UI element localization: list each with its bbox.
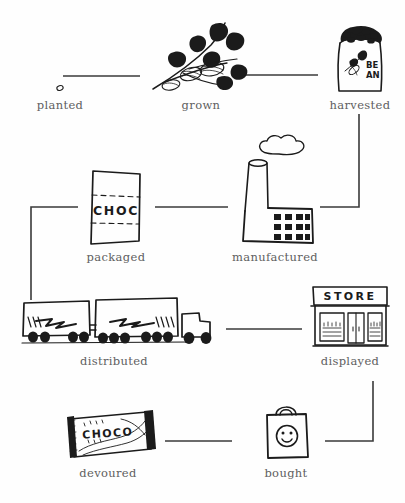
node-devoured[interactable]: CHOCO devoured — [52, 402, 164, 480]
choc-package-art: CHOC — [82, 165, 150, 247]
chocolate-bar-icon: CHOCO — [59, 407, 157, 463]
bean-sack-text-line2: AN — [366, 70, 380, 80]
node-label-packaged: packaged — [87, 250, 146, 264]
node-store[interactable]: STORE displayed — [302, 282, 398, 368]
choc-package-icon: CHOC — [82, 165, 150, 247]
cacao-branch-art — [149, 19, 253, 95]
bean-sack-art: BE AN — [331, 23, 389, 95]
seed-art — [48, 75, 72, 95]
shopping-bag-art — [254, 399, 318, 463]
choc-package-text: CHOC — [93, 203, 139, 218]
bean-sack-text-line1: BE — [366, 60, 378, 70]
node-label-manufactured: manufactured — [232, 250, 318, 264]
node-bought[interactable]: bought — [238, 398, 334, 480]
node-harvested[interactable]: BE AN harvested — [320, 14, 400, 112]
node-label-devoured: devoured — [79, 466, 136, 480]
node-label-distributed: distributed — [80, 354, 148, 368]
shopping-bag-icon — [254, 399, 318, 463]
store-sign-text: STORE — [324, 290, 377, 303]
cacao-branch-icon — [149, 19, 253, 95]
node-planted[interactable]: planted — [8, 62, 112, 112]
node-manufactured[interactable]: manufactured — [222, 100, 328, 264]
node-label-planted: planted — [37, 98, 84, 112]
node-label-harvested: harvested — [330, 98, 391, 112]
store-icon: STORE — [308, 283, 392, 351]
node-distributed[interactable]: distributed — [8, 286, 220, 368]
seed-icon — [48, 75, 72, 95]
factory-art — [231, 113, 319, 247]
node-label-grown: grown — [182, 98, 221, 112]
store-art: STORE — [308, 283, 392, 351]
truck-art — [14, 289, 214, 351]
bean-sack-icon: BE AN — [331, 23, 389, 95]
chocolate-bar-text: CHOCO — [82, 425, 134, 442]
chocolate-bar-art: CHOCO — [59, 407, 157, 463]
node-grown[interactable]: grown — [146, 14, 256, 112]
node-label-bought: bought — [264, 466, 307, 480]
node-packaged[interactable]: CHOC packaged — [68, 152, 164, 264]
truck-icon — [14, 289, 214, 351]
node-label-displayed: displayed — [321, 354, 380, 368]
factory-icon — [231, 113, 319, 247]
diagram-canvas: planted — [0, 0, 405, 503]
